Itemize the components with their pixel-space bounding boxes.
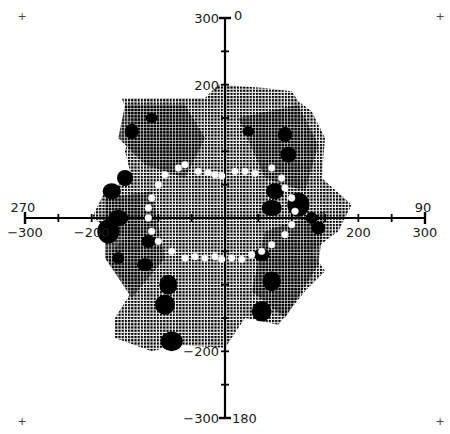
x-tick-label: 200 <box>346 225 371 240</box>
dense-cluster <box>146 113 158 123</box>
ellipse-marker-point <box>168 248 175 255</box>
x-tick-label: −200 <box>74 225 110 240</box>
ellipse-marker-point <box>192 253 199 260</box>
dense-cluster <box>112 252 124 264</box>
bearing-label-right: 90 <box>415 200 432 215</box>
ellipse-marker-point <box>292 208 299 215</box>
dense-cluster <box>311 222 325 235</box>
ellipse-marker-point <box>238 256 245 263</box>
ellipse-marker-point <box>155 181 162 188</box>
ellipse-marker-point <box>195 168 202 175</box>
ellipse-marker-point <box>288 195 295 202</box>
ellipse-marker-point <box>268 241 275 248</box>
dense-cluster <box>262 200 282 216</box>
dense-cluster <box>103 183 121 199</box>
dense-cluster <box>278 127 292 142</box>
ellipse-marker-point <box>242 168 249 175</box>
dense-cluster <box>137 258 153 271</box>
x-tick-label: 300 <box>413 225 438 240</box>
bearing-label-left: 270 <box>11 200 36 215</box>
ellipse-marker-point <box>252 170 259 177</box>
dense-cluster <box>280 147 296 163</box>
dense-cluster <box>141 235 155 248</box>
bearing-label-top: 0 <box>234 8 242 23</box>
axes <box>25 18 425 418</box>
ellipse-marker-point <box>162 171 169 178</box>
dense-cluster <box>161 331 183 351</box>
ellipse-marker-point <box>182 255 189 262</box>
dense-cluster <box>155 295 175 315</box>
ellipse-marker-point <box>155 238 162 245</box>
dense-cluster <box>263 271 281 291</box>
ellipse-marker-point <box>282 185 289 192</box>
dense-cluster <box>242 127 254 137</box>
ellipse-marker-point <box>145 205 152 212</box>
y-tick-label: 200 <box>194 78 219 93</box>
ellipse-marker-point <box>288 221 295 228</box>
bearing-label-bottom: 180 <box>232 411 257 426</box>
ellipse-marker-point <box>205 169 212 176</box>
ellipse-marker-point <box>212 171 219 178</box>
ellipse-marker-point <box>175 165 182 172</box>
x-tick-label: −300 <box>7 225 43 240</box>
ellipse-marker-point <box>248 251 255 258</box>
corner-plus-marker: + <box>17 415 26 428</box>
ellipse-marker-point <box>268 165 275 172</box>
corner-plus-marker: + <box>17 10 26 23</box>
ellipse-marker-point <box>258 248 265 255</box>
ellipse-marker-point <box>148 195 155 202</box>
y-tick-label: −200 <box>183 344 219 359</box>
y-tick-label: −300 <box>183 411 219 426</box>
ellipse-marker-point <box>145 215 152 222</box>
dense-cluster <box>125 124 139 139</box>
ellipse-marker-point <box>212 253 219 260</box>
dense-cluster <box>117 170 133 186</box>
y-tick-label: 300 <box>194 11 219 26</box>
corner-plus-marker: + <box>435 415 444 428</box>
ellipse-marker-point <box>282 231 289 238</box>
dense-cluster <box>266 183 284 199</box>
ellipse-marker-point <box>182 161 189 168</box>
ellipse-marker-point <box>202 255 209 262</box>
ellipse-marker-point <box>218 256 225 263</box>
dense-cluster <box>159 275 177 295</box>
dense-cluster <box>252 301 272 321</box>
corner-plus-marker: + <box>435 10 444 23</box>
ellipse-marker-point <box>148 228 155 235</box>
ellipse-marker-point <box>232 168 239 175</box>
ellipse-marker-point <box>218 173 225 180</box>
ellipse-marker-point <box>278 175 285 182</box>
ellipse-marker-point <box>228 255 235 262</box>
polar-scatter-chart: ++++ −300−200200300300200−200−3000901802… <box>0 0 450 434</box>
